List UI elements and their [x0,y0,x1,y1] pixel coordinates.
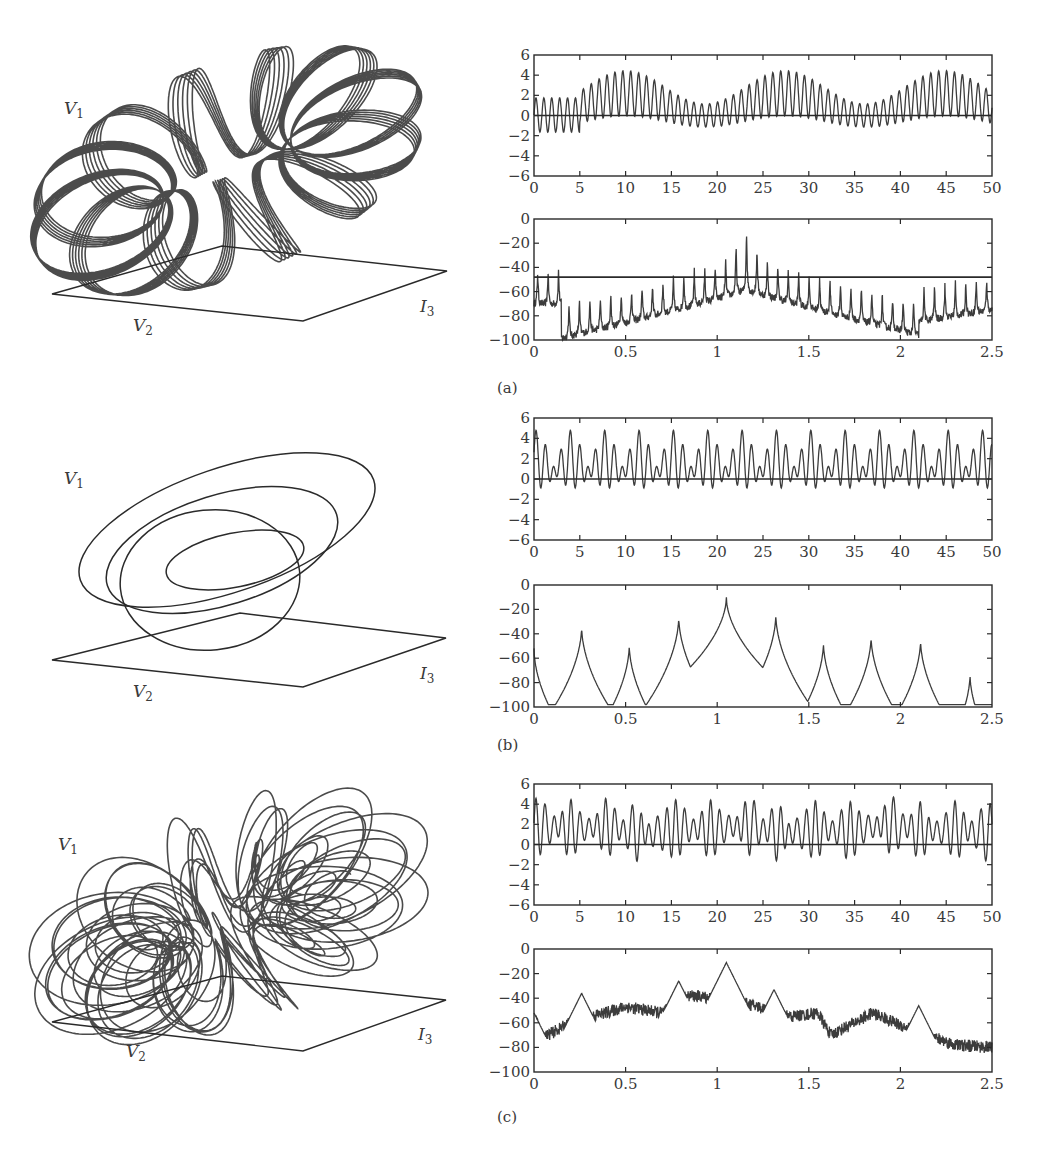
y-tick-label: 6 [520,409,530,427]
x-tick-label: 2 [896,343,906,361]
x-tick-label: 10 [616,543,635,561]
chart-b-spectrum: 00.511.522.50−20−40−60−80−100 [489,576,1004,728]
y-tick-label: 0 [520,210,530,228]
axis-label-v1: V1 [64,98,84,121]
x-tick-label: 25 [753,543,772,561]
x-tick-label: 1 [712,1075,722,1093]
x-tick-label: 2.5 [980,1075,1004,1093]
y-tick-label: −40 [498,258,530,276]
x-tick-label: 0 [529,343,539,361]
limit-cycle-loop [113,501,306,658]
x-tick-label: 35 [845,543,864,561]
y-tick-label: −6 [508,167,530,185]
y-tick-label: −60 [498,649,530,667]
x-tick-label: 10 [616,179,635,197]
panel-label: (a) [497,379,518,397]
x-tick-label: 20 [708,179,727,197]
y-tick-label: −2 [508,856,530,874]
base-plane [52,976,446,1051]
axis-label-v1: V1 [64,468,84,491]
x-tick-label: 0.5 [614,710,638,728]
x-tick-label: 30 [799,179,818,197]
phase-portraits [29,46,447,1051]
x-tick-label: 20 [708,543,727,561]
y-tick-label: 6 [520,46,530,64]
x-tick-label: 15 [662,908,681,926]
y-tick-label: −6 [508,896,530,914]
y-tick-label: 0 [520,470,530,488]
x-tick-label: 35 [845,908,864,926]
chart-c-time: 051015202530354045506420−2−4−6 [508,775,1002,926]
y-tick-label: −80 [498,674,530,692]
time-and-spectrum-charts: 051015202530354045506420−2−4−600.511.522… [489,46,1004,1093]
x-tick-label: 1.5 [797,710,821,728]
axis-label-v1: V1 [58,834,78,857]
x-tick-label: 50 [982,543,1001,561]
axis-label-i3: I3 [419,663,434,686]
y-tick-label: −100 [489,698,530,716]
y-tick-label: 0 [520,940,530,958]
axis-label-v2: V2 [133,315,153,338]
x-tick-label: 5 [575,543,585,561]
x-tick-label: 0 [529,179,539,197]
y-tick-label: −2 [508,127,530,145]
plot-frame [534,585,992,707]
x-tick-label: 5 [575,179,585,197]
panel-label: (c) [497,1108,517,1126]
x-tick-label: 25 [753,179,772,197]
y-tick-label: −4 [508,147,530,165]
x-tick-label: 25 [753,908,772,926]
y-tick-label: 2 [520,815,530,833]
y-tick-label: 4 [520,429,530,447]
x-tick-label: 1 [712,343,722,361]
panel-label: (b) [497,736,518,754]
x-tick-label: 0.5 [614,343,638,361]
chart-c-spectrum: 00.511.522.50−20−40−60−80−100 [489,940,1004,1093]
data-series [534,237,992,340]
y-tick-label: 6 [520,775,530,793]
y-tick-label: 0 [520,107,530,125]
x-tick-label: 40 [891,179,910,197]
y-tick-label: −40 [498,989,530,1007]
limit-cycle-loop [161,520,309,601]
y-tick-label: −20 [498,965,530,983]
axis-label-v2: V2 [126,1041,146,1064]
y-tick-label: −6 [508,531,530,549]
x-tick-label: 45 [937,543,956,561]
y-tick-label: 4 [520,66,530,84]
x-tick-label: 0 [529,1075,539,1093]
x-tick-label: 0 [529,908,539,926]
y-tick-label: −20 [498,234,530,252]
trajectory [31,46,422,296]
axis-label-i3: I3 [419,296,434,319]
axis-label-i3: I3 [417,1024,432,1047]
chart-a-spectrum: 00.511.522.50−20−40−60−80−100 [489,210,1004,361]
x-tick-label: 15 [662,543,681,561]
x-tick-label: 0 [529,710,539,728]
data-series [534,597,992,704]
x-tick-label: 2 [896,710,906,728]
y-tick-label: −20 [498,600,530,618]
x-tick-label: 2.5 [980,343,1004,361]
phase-portrait-c [29,788,446,1051]
figure: 051015202530354045506420−2−4−600.511.522… [0,0,1052,1163]
x-tick-label: 35 [845,179,864,197]
chart-a-time: 051015202530354045506420−2−4−6 [508,46,1002,197]
data-series [534,71,992,132]
x-tick-label: 20 [708,908,727,926]
x-tick-label: 10 [616,908,635,926]
x-tick-label: 40 [891,908,910,926]
y-tick-label: −60 [498,1014,530,1032]
phase-portrait-a [31,46,447,321]
y-tick-label: −80 [498,307,530,325]
y-tick-label: 2 [520,450,530,468]
x-tick-label: 2.5 [980,710,1004,728]
y-tick-label: 2 [520,86,530,104]
x-tick-label: 2 [896,1075,906,1093]
base-plane [52,613,446,687]
x-tick-label: 1 [712,710,722,728]
data-series [534,797,992,861]
base-plane [52,246,447,321]
x-tick-label: 30 [799,908,818,926]
x-tick-label: 50 [982,179,1001,197]
